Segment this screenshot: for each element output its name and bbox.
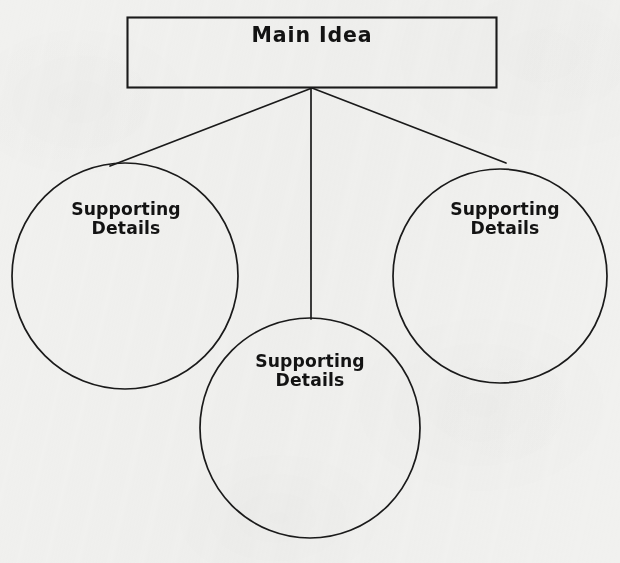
connector-main-to-right [312,88,506,163]
supporting-details-circle-right [393,169,607,383]
main-idea-box [128,18,497,88]
connector-main-to-left [110,88,312,166]
diagram-vector-layer [0,0,620,563]
connector-group [110,88,506,319]
diagram-canvas: Main Idea Supporting Details Supporting … [0,0,620,563]
supporting-details-circle-center [200,318,420,538]
supporting-details-circle-left [12,163,238,389]
